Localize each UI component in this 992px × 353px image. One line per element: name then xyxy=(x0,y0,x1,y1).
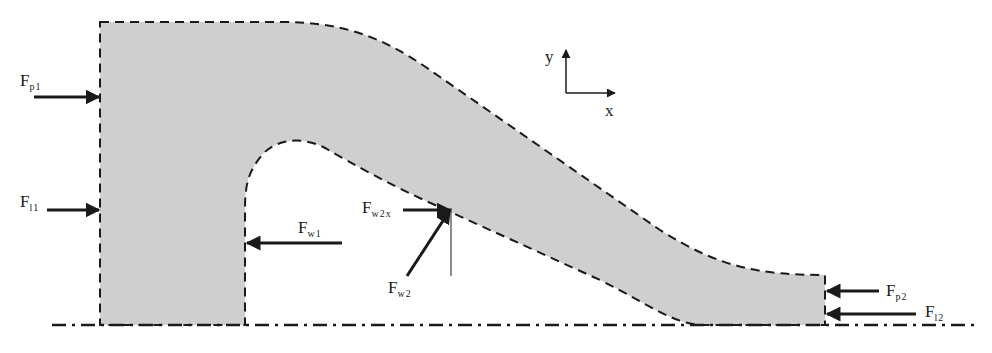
svg-text:Fl1: Fl1 xyxy=(20,192,39,213)
svg-text:Fp2: Fp2 xyxy=(886,281,907,302)
force-fl2: Fl2 xyxy=(827,302,944,323)
force-fl1: Fl1 xyxy=(20,192,99,213)
force-fw2: Fw2 xyxy=(388,208,451,299)
y-axis-label: y xyxy=(545,47,554,66)
svg-text:Fw2x: Fw2x xyxy=(362,198,392,219)
svg-text:Fw1: Fw1 xyxy=(298,218,322,239)
force-fp2: Fp2 xyxy=(827,281,907,302)
control-volume-diagram: y x Fp1 Fl1 Fw1 Fw2x Fw2 Fp2 Fl2 xyxy=(0,0,992,353)
coordinate-axes: y x xyxy=(545,47,615,120)
svg-text:Fw2: Fw2 xyxy=(388,278,412,299)
force-fw1: Fw1 xyxy=(247,218,342,243)
x-axis-label: x xyxy=(605,101,614,120)
svg-text:Fl2: Fl2 xyxy=(925,302,944,323)
svg-text:Fp1: Fp1 xyxy=(20,71,41,92)
arrow-diagonal-icon xyxy=(407,210,450,276)
control-volume-shape xyxy=(100,22,825,325)
force-fp1: Fp1 xyxy=(20,71,99,97)
